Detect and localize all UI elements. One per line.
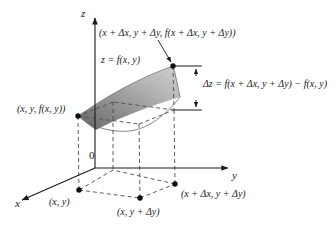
base-dashed-parallelogram [79, 170, 175, 198]
dot-base-xy [76, 187, 81, 192]
delta-z-label: Δz = f(x + Δx, y + Δy) − f(x, y) [203, 79, 327, 89]
base-point-dxdy-label: (x + Δx, y + Δy) [181, 189, 246, 199]
dot-surface-far [170, 63, 175, 68]
left-point-label: (x, y, f(x, y)) [17, 104, 65, 114]
origin-label: 0 [89, 150, 95, 161]
z-axis-label: z [81, 8, 85, 19]
dot-base-dxdy [172, 181, 177, 186]
base-point-xy-label: (x, y) [49, 197, 70, 207]
dot-base-xydy [137, 195, 142, 200]
surface-patch [78, 66, 180, 131]
y-axis-label: y [232, 170, 237, 181]
top-label-leader [158, 40, 171, 62]
figure-canvas: z y x 0 (x + Δx, y + Δy, f(x + Δx, y + Δ… [0, 0, 336, 228]
base-point-xydy-label: (x, y + Δy) [117, 207, 160, 217]
dot-surface-near [75, 113, 80, 118]
surface-equation-label: z = f(x, y) [101, 55, 140, 65]
x-axis-label: x [15, 198, 20, 209]
top-point-label: (x + Δx, y + Δy, f(x + Δx, y + Δy)) [99, 28, 236, 38]
